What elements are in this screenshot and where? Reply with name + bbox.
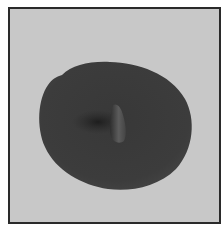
photo-disc-with-nub <box>10 9 219 222</box>
photo-frame <box>8 7 221 224</box>
